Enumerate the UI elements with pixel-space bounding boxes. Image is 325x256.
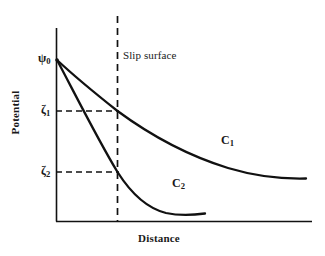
c1-subscript: 1: [230, 138, 234, 148]
zeta2-subscript: 2: [46, 169, 50, 179]
x-axis-title: Distance: [138, 233, 180, 244]
surface-potential-marker: [55, 58, 59, 62]
y-axis-title: Potential: [10, 77, 21, 149]
surface-potential-label: ψ0: [38, 52, 51, 66]
zeta1-label: ζ1: [41, 104, 50, 118]
curve-c1: [57, 60, 306, 179]
axes-group: [56, 28, 312, 222]
c2-symbol: C: [172, 176, 181, 190]
zeta2-label: ζ2: [41, 165, 50, 179]
curve-c2-label: C2: [172, 177, 185, 191]
c1-symbol: C: [221, 133, 230, 147]
curve-c1-label: C1: [221, 134, 234, 148]
plot-canvas: [0, 0, 325, 256]
slip-surface-label: Slip surface: [123, 50, 176, 61]
psi-subscript: 0: [46, 56, 50, 66]
zeta1-subscript: 1: [46, 108, 50, 118]
curve-c2: [57, 60, 205, 215]
c2-subscript: 2: [181, 181, 185, 191]
potential-vs-distance-figure: Potential Distance ψ0 ζ1 ζ2 Slip surface…: [0, 0, 325, 256]
